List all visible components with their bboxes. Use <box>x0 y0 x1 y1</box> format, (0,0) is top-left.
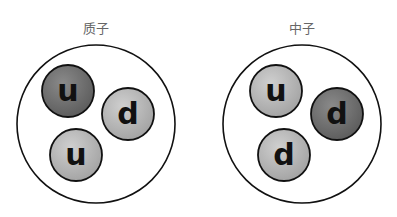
svg-text:u: u <box>265 73 286 108</box>
quark-up-dark: u <box>42 65 94 117</box>
proton: u d u <box>17 45 175 203</box>
quark-down-light: d <box>102 88 154 140</box>
svg-text:d: d <box>117 96 138 131</box>
svg-text:u: u <box>65 137 86 172</box>
svg-text:u: u <box>57 73 78 108</box>
quark-up-light: u <box>250 65 302 117</box>
neutron: u d d <box>223 45 381 203</box>
quark-diagram: u d u u d d <box>0 0 397 217</box>
quark-down-light: d <box>258 129 310 181</box>
quark-down-dark: d <box>311 88 363 140</box>
quark-up-light: u <box>50 129 102 181</box>
svg-text:d: d <box>326 96 347 131</box>
svg-text:d: d <box>273 137 294 172</box>
